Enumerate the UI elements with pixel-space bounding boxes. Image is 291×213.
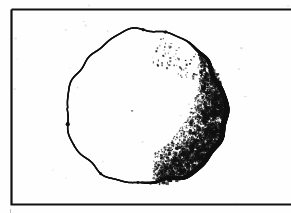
figure-container: A roughly drawn circle with a heavy dark… — [0, 0, 291, 213]
sphere-line-drawing-canvas — [0, 0, 291, 213]
